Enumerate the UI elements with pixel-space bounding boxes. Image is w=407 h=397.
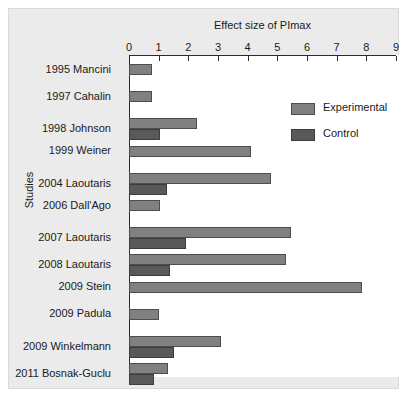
plot-area: 0123456789 (121, 39, 400, 385)
bar-control (129, 238, 186, 249)
bar-experimental (129, 200, 160, 211)
axis-tick-label-2: 2 (185, 41, 191, 53)
bar-experimental (129, 146, 251, 157)
category-label: 1999 Weiner (49, 144, 111, 156)
category-label: 2009 Padula (49, 307, 111, 319)
legend-swatch-experimental (291, 103, 315, 115)
category-label: 1995 Mancini (46, 63, 111, 75)
axis-tick-4 (248, 56, 249, 61)
axis-tick-3 (218, 56, 219, 61)
axis-tick-6 (307, 56, 308, 61)
axis-tick-label-5: 5 (274, 41, 280, 53)
bar-experimental (129, 336, 221, 347)
category-label: 2007 Laoutaris (38, 231, 111, 243)
chart-title: Effect size of PImax (129, 19, 396, 31)
value-axis: 0123456789 (129, 55, 396, 56)
bar-experimental (129, 309, 159, 320)
bar-control (129, 374, 154, 385)
category-label: 2006 Dall'Ago (43, 199, 111, 211)
category-label: 2011 Bosnak-Guclu (15, 367, 111, 379)
legend-label: Experimental (323, 101, 387, 113)
axis-tick-label-3: 3 (215, 41, 221, 53)
bar-experimental (129, 254, 286, 265)
axis-tick-5 (277, 56, 278, 61)
category-label: 2008 Laoutaris (38, 258, 111, 270)
category-label: 2009 Winkelmann (23, 340, 111, 352)
axis-tick-label-8: 8 (363, 41, 369, 53)
axis-tick-9 (396, 56, 397, 61)
legend-label: Control (323, 127, 358, 139)
bar-experimental (129, 91, 152, 102)
category-label: 1998 Johnson (42, 122, 111, 134)
bar-control (129, 129, 160, 140)
axis-tick-label-0: 0 (126, 41, 132, 53)
axis-tick-0 (129, 56, 130, 61)
axis-tick-1 (159, 56, 160, 61)
category-label: 1997 Cahalin (46, 90, 111, 102)
category-label: 2004 Laoutaris (38, 177, 111, 189)
bar-control (129, 265, 170, 276)
axis-tick-label-4: 4 (245, 41, 251, 53)
chart-figure: Effect size of PImax Studies 1995 Mancin… (8, 8, 399, 389)
axis-tick-2 (188, 56, 189, 61)
bar-experimental (129, 282, 362, 293)
axis-tick-label-1: 1 (156, 41, 162, 53)
axis-tick-7 (337, 56, 338, 61)
category-label: 2009 Stein (58, 280, 111, 292)
axis-tick-label-7: 7 (334, 41, 340, 53)
bar-experimental (129, 118, 197, 129)
axis-tick-label-9: 9 (393, 41, 399, 53)
bar-control (129, 184, 167, 195)
bar-experimental (129, 173, 271, 184)
axis-tick-8 (366, 56, 367, 61)
legend-swatch-control (291, 129, 315, 141)
category-label-list: 1995 Mancini1997 Cahalin1998 Johnson1999… (9, 39, 117, 385)
bar-control (129, 347, 174, 358)
bar-experimental (129, 227, 291, 238)
bar-experimental (129, 363, 168, 374)
bar-experimental (129, 64, 152, 75)
axis-tick-label-6: 6 (304, 41, 310, 53)
